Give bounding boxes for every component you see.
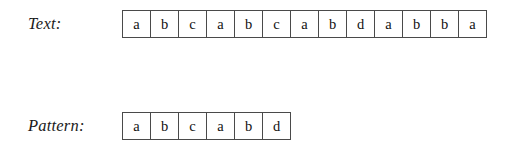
text-cell: b [319, 11, 347, 37]
text-row-label: Text: [28, 10, 122, 38]
pattern-row: Pattern: abcabd [0, 112, 291, 140]
text-cell: b [151, 11, 179, 37]
text-cell: b [235, 11, 263, 37]
text-cell: d [347, 11, 375, 37]
text-cell: a [375, 11, 403, 37]
text-cell: a [291, 11, 319, 37]
text-cell: b [403, 11, 431, 37]
string-matching-figure: Text: abcabcabdabba Pattern: abcabd [0, 0, 510, 155]
text-cell: a [207, 11, 235, 37]
pattern-cell: b [235, 113, 263, 139]
pattern-cell: d [263, 113, 291, 139]
pattern-cell-grid: abcabd [122, 112, 291, 140]
text-row: Text: abcabcabdabba [0, 10, 487, 38]
text-cell-grid: abcabcabdabba [122, 10, 487, 38]
text-cell: c [179, 11, 207, 37]
text-cell: a [459, 11, 487, 37]
pattern-cell: c [179, 113, 207, 139]
pattern-cell: a [123, 113, 151, 139]
text-cell: b [431, 11, 459, 37]
text-cell: a [123, 11, 151, 37]
pattern-cell: a [207, 113, 235, 139]
pattern-cell: b [151, 113, 179, 139]
pattern-row-label: Pattern: [28, 112, 122, 140]
text-cell: c [263, 11, 291, 37]
